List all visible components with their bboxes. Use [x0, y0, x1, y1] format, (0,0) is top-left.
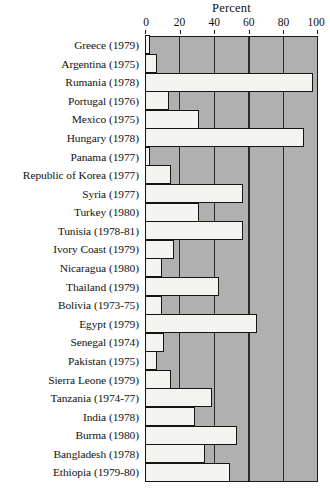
category-label: Bolivia (1973-75)	[58, 296, 139, 315]
category-label: Turkey (1980)	[74, 203, 139, 222]
category-label: Ivory Coast (1979)	[53, 240, 139, 259]
bar	[145, 221, 243, 240]
bar	[145, 203, 198, 222]
gridline	[283, 37, 284, 481]
category-label: Hungary (1978)	[67, 129, 139, 148]
x-axis-tick-mark	[317, 30, 318, 34]
bar	[145, 444, 205, 463]
category-label: Mexico (1975)	[72, 110, 139, 129]
bar	[145, 426, 236, 445]
x-axis-tick-label: 80	[278, 16, 290, 28]
category-label: Ethiopia (1979-80)	[53, 463, 139, 482]
category-label: Pakistan (1975)	[68, 352, 139, 371]
bar	[145, 370, 170, 389]
x-axis-tick-mark	[214, 30, 215, 34]
bar	[145, 147, 150, 166]
category-label: Tanzania (1974-77)	[51, 389, 139, 408]
bar	[145, 258, 162, 277]
bar	[145, 388, 212, 407]
gridline	[248, 37, 249, 481]
category-label: Panama (1977)	[70, 148, 139, 167]
x-axis-tick-mark	[249, 30, 250, 34]
category-label: Egypt (1979)	[79, 315, 139, 334]
bar	[145, 407, 195, 426]
category-label: Republic of Korea (1977)	[23, 166, 139, 185]
bar	[145, 110, 198, 129]
bar	[145, 296, 162, 315]
chart-title: Percent	[145, 1, 318, 16]
plot-area	[145, 36, 318, 482]
category-label: Nicaragua (1980)	[60, 259, 139, 278]
category-label: Tunisia (1978-81)	[58, 222, 139, 241]
bar	[145, 184, 243, 203]
bar	[145, 35, 150, 54]
category-label: India (1978)	[83, 408, 139, 427]
bar	[145, 463, 229, 482]
x-axis: 020406080100	[145, 16, 318, 34]
category-label: Bangladesh (1978)	[53, 445, 139, 464]
x-axis-tick-label: 60	[243, 16, 255, 28]
x-axis-tick-label: 20	[174, 16, 186, 28]
bar	[145, 333, 164, 352]
category-label: Syria (1977)	[82, 185, 139, 204]
gridline	[214, 37, 215, 481]
category-label: Rumania (1978)	[65, 73, 139, 92]
bar	[145, 314, 257, 333]
category-label: Argentina (1975)	[61, 55, 139, 74]
category-label: Portugal (1976)	[68, 92, 139, 111]
x-axis-tick-label: 100	[307, 16, 324, 28]
category-label-column: Greece (1979)Argentina (1975)Rumania (19…	[0, 36, 143, 486]
x-axis-tick-mark	[283, 30, 284, 34]
x-axis-tick-mark	[145, 30, 146, 34]
x-axis-tick-label: 40	[208, 16, 220, 28]
bar	[145, 91, 169, 110]
category-label: Senegal (1974)	[70, 333, 139, 352]
x-axis-tick-label: 0	[143, 16, 149, 28]
x-axis-tick-mark	[180, 30, 181, 34]
bar	[145, 165, 170, 184]
bar	[145, 277, 219, 296]
category-label: Greece (1979)	[74, 36, 139, 55]
bar	[145, 54, 157, 73]
bar	[145, 73, 312, 92]
chart-page: Percent 020406080100 Greece (1979)Argent…	[0, 0, 330, 489]
category-label: Sierra Leone (1979)	[48, 371, 139, 390]
bar	[145, 351, 157, 370]
category-label: Thailand (1979)	[66, 278, 139, 297]
bar	[145, 128, 304, 147]
category-label: Burma (1980)	[75, 426, 139, 445]
bar	[145, 240, 174, 259]
